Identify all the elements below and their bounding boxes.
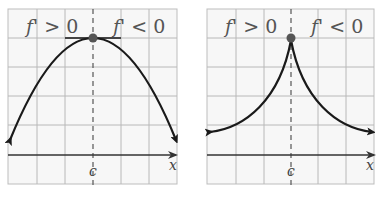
left-graph-panel: f' > 0 f' < 0 c x (8, 9, 177, 186)
left-c-label: c (89, 163, 97, 179)
left-label-fprime-negative: f' < 0 (111, 15, 165, 37)
right-max-point (287, 34, 296, 43)
left-label-fprime-positive: f' > 0 (24, 15, 78, 37)
left-x-label: x (169, 157, 177, 173)
right-c-label: c (287, 163, 295, 179)
right-graph-panel: f' > 0 f' < 0 c x (207, 9, 374, 186)
right-label-fprime-positive: f' > 0 (223, 15, 277, 37)
figure: f' > 0 f' < 0 c x f' > 0 f' < 0 c x (0, 0, 381, 199)
left-max-point (89, 34, 98, 43)
right-x-label: x (366, 157, 374, 173)
right-label-fprime-negative: f' < 0 (309, 15, 363, 37)
